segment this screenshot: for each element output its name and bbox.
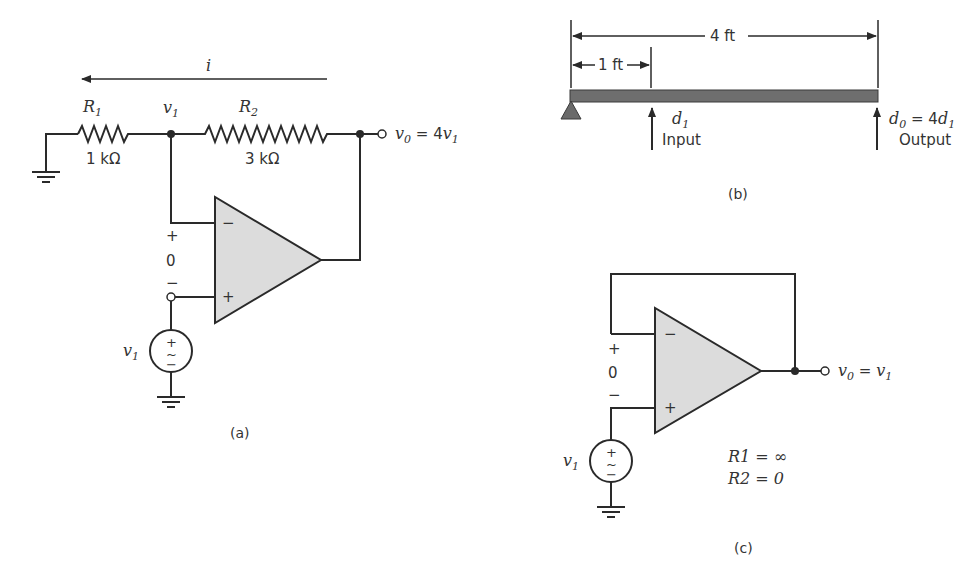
diff-minus: − [608, 386, 621, 404]
ground-icon [32, 172, 60, 182]
r1-label: R1 [82, 97, 102, 119]
opamp-minus-label: − [664, 325, 677, 343]
svg-text:−: − [606, 467, 617, 482]
current-label: i [206, 56, 211, 75]
svg-text:−: − [166, 357, 177, 372]
caption-a: (a) [230, 425, 250, 441]
ac-voltage-source-icon: + ~ − [590, 440, 632, 482]
r1-equation: R1 = ∞ [727, 447, 787, 466]
figure-a-noninverting-amplifier: i R1 1 kΩ v1 R2 3 kΩ v0 = 4v1 − + [32, 56, 459, 441]
output-terminal-icon [821, 367, 829, 375]
r2-label: R2 [238, 97, 258, 119]
diff-value: 0 [166, 252, 176, 270]
ground-wire [46, 134, 78, 172]
output-node-dot [791, 367, 799, 375]
output-label-a: v0 = 4v1 [395, 124, 459, 146]
source-label-c: v1 [563, 451, 579, 473]
diff-plus: + [166, 227, 179, 245]
node-v1-label: v1 [163, 98, 179, 120]
feedback-wire [171, 134, 215, 223]
plus-input-wire [611, 408, 655, 440]
opamp-plus-label: + [664, 399, 677, 417]
caption-c: (c) [734, 540, 753, 556]
output-terminal-icon [378, 130, 386, 138]
input-text: Input [662, 131, 701, 149]
input-terminal-icon [167, 293, 175, 301]
resistor-r2-icon [171, 126, 360, 142]
output-d0-label: d0 = 4d1 [889, 109, 955, 131]
input-d1-label: 1d1 [672, 109, 689, 131]
output-wire [321, 134, 360, 260]
diagram-canvas: i R1 1 kΩ v1 R2 3 kΩ v0 = 4v1 − + [0, 0, 976, 574]
r2-equation: R2 = 0 [727, 469, 784, 488]
diff-value: 0 [608, 364, 618, 382]
resistor-r1-icon [78, 126, 171, 142]
lever-beam [570, 90, 878, 102]
source-label-a: v1 [123, 341, 139, 363]
caption-b: (b) [728, 186, 748, 202]
r2-value: 3 kΩ [245, 150, 279, 168]
input-length-label: 1 ft [598, 56, 623, 74]
total-length-label: 4 ft [710, 27, 735, 45]
ground-icon [597, 507, 625, 517]
r1-value: 1 kΩ [86, 150, 120, 168]
diff-minus: − [166, 274, 179, 292]
diff-plus: + [608, 340, 621, 358]
figure-c-voltage-follower: − + v0 = v1 + 0 − + ~ − v1 R1 = ∞ R2 = 0… [563, 274, 892, 556]
ground-icon [157, 397, 185, 407]
output-label-c: v0 = v1 [838, 361, 892, 383]
opamp-plus-label: + [222, 288, 235, 306]
ac-voltage-source-icon: + ~ − [150, 330, 192, 372]
fulcrum-icon [561, 101, 581, 119]
output-text: Output [899, 131, 951, 149]
figure-b-lever-analogy: 4 ft 1 ft 1d1 Input d0 = 4d1 Output (b) [561, 20, 955, 202]
opamp-minus-label: − [222, 214, 235, 232]
